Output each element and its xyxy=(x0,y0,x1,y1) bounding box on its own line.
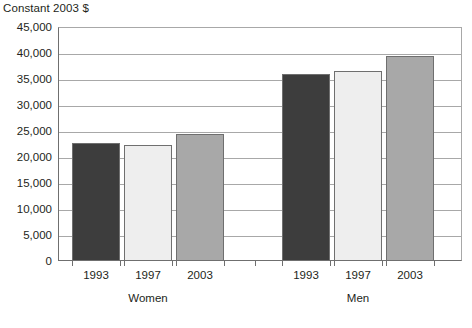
x-axis-group-label-men: Men xyxy=(347,292,369,304)
y-axis-labels: 45,00040,00035,00030,00025,00020,00015,0… xyxy=(0,27,52,261)
y-axis-tick-label: 35,000 xyxy=(0,73,52,85)
x-axis-tick-label: 1993 xyxy=(293,269,319,281)
y-axis-tick-label: 5,000 xyxy=(0,229,52,241)
y-axis-tick-label: 30,000 xyxy=(0,99,52,111)
y-axis-tick-label: 45,000 xyxy=(0,21,52,33)
x-axis-tick-label: 2003 xyxy=(397,269,423,281)
bar-women-1997[interactable] xyxy=(124,145,172,261)
x-axis-tick xyxy=(176,261,177,266)
bar-chart: Constant 2003 $ 45,00040,00035,00030,000… xyxy=(0,0,472,328)
x-axis-tick xyxy=(382,261,383,266)
bar-men-2003[interactable] xyxy=(386,56,434,261)
y-axis-tick-label: 40,000 xyxy=(0,47,52,59)
x-axis-tick xyxy=(120,261,121,266)
x-axis-tick xyxy=(72,261,73,266)
y-axis-tick-label: 10,000 xyxy=(0,203,52,215)
bar-women-2003[interactable] xyxy=(176,134,224,261)
x-axis-tick xyxy=(282,261,283,266)
x-axis-tick xyxy=(330,261,331,266)
x-axis-tick xyxy=(434,261,435,266)
x-axis-tick xyxy=(386,261,387,266)
y-axis-tick-label: 20,000 xyxy=(0,151,52,163)
x-axis-tick xyxy=(334,261,335,266)
gridline xyxy=(59,54,461,55)
y-axis-tick-label: 25,000 xyxy=(0,125,52,137)
x-axis-tick-label: 2003 xyxy=(187,269,213,281)
x-axis-tick-label: 1997 xyxy=(135,269,161,281)
x-axis-group-label-women: Women xyxy=(128,292,167,304)
chart-title: Constant 2003 $ xyxy=(3,2,89,14)
y-axis-tick-label: 15,000 xyxy=(0,177,52,189)
bar-women-1993[interactable] xyxy=(72,143,120,261)
bar-men-1993[interactable] xyxy=(282,74,330,261)
bar-men-1997[interactable] xyxy=(334,71,382,261)
x-axis-tick-label: 1993 xyxy=(83,269,109,281)
x-axis-tick xyxy=(224,261,225,266)
y-axis-tick-label: 0 xyxy=(0,255,52,267)
x-axis-tick xyxy=(172,261,173,266)
x-axis-tick-label: 1997 xyxy=(345,269,371,281)
x-axis-tick xyxy=(124,261,125,266)
group-separator-tick xyxy=(255,261,256,266)
